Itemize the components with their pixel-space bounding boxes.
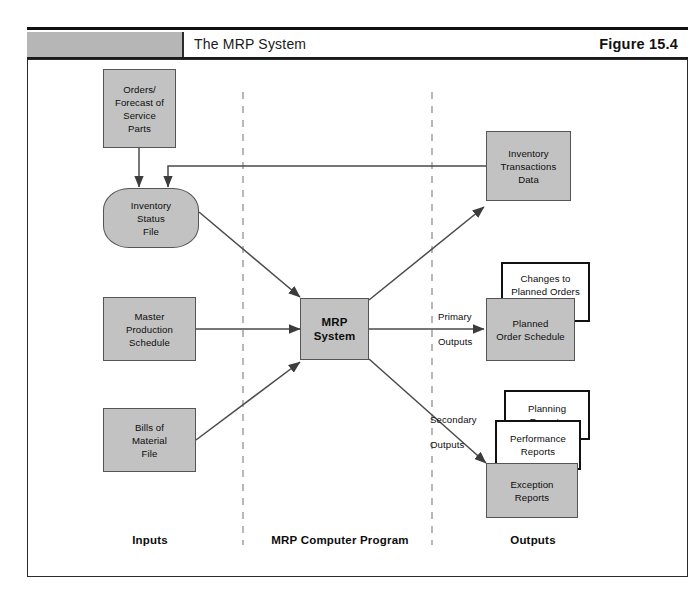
- node-inventory-status-file-label: Inventory Status File: [131, 199, 171, 238]
- flow-label-primary-outputs: Outputs: [438, 336, 472, 348]
- figure-number-label: Figure 15.4: [599, 36, 678, 52]
- node-orders-forecast-label: Orders/ Forecast of Service Parts: [115, 83, 164, 135]
- flow-label-secondary-outputs: Outputs: [430, 439, 464, 451]
- node-planned-order-schedule-label: Planned Order Schedule: [496, 317, 565, 343]
- category-label-mrp-computer-program: MRP Computer Program: [265, 534, 415, 546]
- flow-label-primary: Primary: [438, 311, 472, 323]
- node-master-production-schedule[interactable]: Master Production Schedule: [103, 297, 196, 361]
- figure-header-bar: Figure 15.4 The MRP System: [27, 32, 688, 57]
- figure-page: Figure 15.4 The MRP System: [0, 0, 692, 601]
- node-exception-reports-label: Exception Reports: [510, 478, 553, 504]
- flow-label-secondary: Secondary: [430, 414, 477, 426]
- figure-number-tag: [27, 32, 184, 57]
- node-inventory-transactions-data-label: Inventory Transactions Data: [501, 147, 557, 186]
- node-inventory-transactions-data[interactable]: Inventory Transactions Data: [486, 131, 571, 201]
- header-top-rule: [27, 27, 688, 30]
- category-label-outputs: Outputs: [478, 534, 588, 546]
- node-planned-order-schedule[interactable]: Planned Order Schedule: [486, 298, 575, 361]
- node-inventory-status-file[interactable]: Inventory Status File: [103, 188, 199, 248]
- node-mrp-system-label: MRP System: [314, 315, 356, 343]
- figure-title: The MRP System: [194, 36, 306, 52]
- node-bills-of-material-file[interactable]: Bills of Material File: [103, 408, 196, 472]
- node-master-production-schedule-label: Master Production Schedule: [126, 310, 173, 349]
- node-exception-reports[interactable]: Exception Reports: [486, 463, 578, 518]
- node-mrp-system[interactable]: MRP System: [300, 298, 369, 360]
- node-orders-forecast-service-parts[interactable]: Orders/ Forecast of Service Parts: [103, 69, 176, 148]
- node-bills-of-material-file-label: Bills of Material File: [132, 421, 167, 460]
- category-label-inputs: Inputs: [100, 534, 200, 546]
- node-changes-to-planned-orders-label: Changes to Planned Orders: [511, 272, 580, 298]
- node-performance-reports-label: Performance Reports: [510, 432, 566, 458]
